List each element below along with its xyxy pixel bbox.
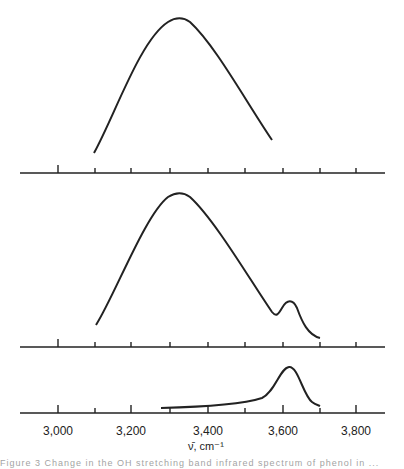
tick-label-3400: 3,400 bbox=[193, 424, 223, 438]
tick-label-3800: 3,800 bbox=[341, 424, 371, 438]
top-curve bbox=[94, 18, 272, 153]
bottom-curve bbox=[161, 367, 320, 408]
middle-curve bbox=[96, 193, 320, 338]
x-axis-label: ν̄, cm⁻¹ bbox=[188, 440, 224, 453]
tick-label-3000: 3,000 bbox=[43, 424, 73, 438]
spectra-chart bbox=[0, 0, 404, 469]
top-axis bbox=[20, 165, 385, 173]
figure-caption: Figure 3 Change in the OH stretching ban… bbox=[0, 458, 404, 468]
middle-axis bbox=[20, 339, 385, 347]
tick-label-3200: 3,200 bbox=[116, 424, 146, 438]
tick-label-3600: 3,600 bbox=[268, 424, 298, 438]
